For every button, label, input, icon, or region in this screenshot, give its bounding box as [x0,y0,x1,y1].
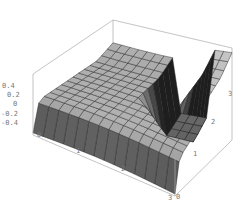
z-tick-label: -0.4 [1,119,18,127]
z-tick-label: 0 [13,100,17,108]
z-tick-label: 0.2 [7,91,20,99]
y-tick-label: 0 [176,193,180,201]
x-tick-label: 2 [121,165,125,173]
z-axis: 0.4 0.2 0 -0.2 -0.4 [1,82,20,127]
z-tick-label: -0.2 [1,110,18,118]
y-tick-label: 2 [211,118,215,126]
x-tick-label: 3 [168,194,172,201]
y-tick-label: 1 [193,150,197,158]
surface-mesh [33,43,232,194]
x-tick-label: 1 [76,147,80,155]
surface-plot: 0.4 0.2 0 -0.2 -0.4 0 1 2 3 0 1 2 3 [0,0,246,201]
y-tick-label: 3 [228,90,232,98]
z-tick-label: 0.4 [2,82,15,90]
x-tick-label: 0 [37,131,41,139]
